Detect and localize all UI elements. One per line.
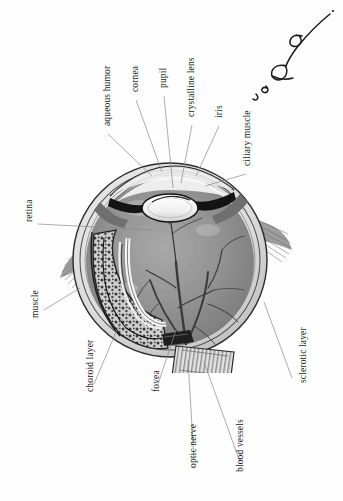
label-ciliary-muscle: ciliary muscle [243,110,253,166]
label-iris: iris [215,105,225,118]
handwritten-scribble [246,8,338,104]
label-sclerotic-layer: sclerotic layer [299,327,309,383]
label-pupil: pupil [159,68,169,88]
label-retina: retina [25,199,35,222]
label-fovea: fovea [152,370,162,392]
crystalline-lens [142,194,198,222]
label-muscle: muscle [31,290,41,318]
label-blood-vessels: blood vessels [236,419,246,472]
label-cornea: cornea [131,66,141,92]
label-choroid-layer: choroid layer [86,340,96,392]
scribble-svg [246,8,338,104]
eye-artwork-svg [58,138,294,373]
diagram-page: aqueous humor cornea pupil crystalline l… [0,0,343,501]
label-crystalline-lens: crystalline lens [187,57,197,117]
label-aqueous-humor: aqueous humor [103,66,113,126]
label-optic-nerve: optic nerve [189,424,199,468]
eye-illustration [58,138,294,373]
optic-nerve [172,346,234,373]
